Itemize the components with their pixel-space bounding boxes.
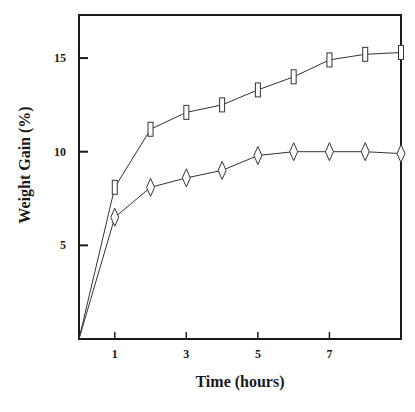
x-axis-title: Time (hours) <box>195 373 284 391</box>
diamond-marker <box>218 161 226 179</box>
square-marker <box>363 47 368 61</box>
x-tick-label: 3 <box>183 347 189 361</box>
y-axis-ticks: 51015 <box>54 51 88 252</box>
diamond-marker <box>111 208 119 226</box>
y-tick-label: 5 <box>60 238 66 252</box>
plot-border <box>79 15 401 339</box>
chart-canvas: 51015 1357 Time (hours) Weight Gain (%) <box>0 0 415 412</box>
square-marker <box>220 98 225 112</box>
x-tick-label: 1 <box>112 347 118 361</box>
square-marker <box>255 83 260 97</box>
square-marker <box>291 70 296 84</box>
series-line <box>79 152 401 339</box>
diamond-marker <box>290 143 298 161</box>
series-square <box>79 45 404 339</box>
diamond-marker <box>182 169 190 187</box>
square-marker <box>112 180 117 194</box>
diamond-marker <box>325 143 333 161</box>
y-tick-label: 10 <box>54 145 66 159</box>
diamond-marker <box>254 146 262 164</box>
square-marker <box>148 122 153 136</box>
square-marker <box>327 53 332 67</box>
x-axis-ticks: 1357 <box>112 332 333 361</box>
x-tick-label: 5 <box>255 347 261 361</box>
diamond-marker <box>147 178 155 196</box>
weight-gain-chart: 51015 1357 Time (hours) Weight Gain (%) <box>0 0 415 412</box>
square-marker <box>184 105 189 119</box>
diamond-marker <box>361 143 369 161</box>
series-line <box>79 53 401 340</box>
y-tick-label: 15 <box>54 51 66 65</box>
plot-frame <box>79 15 401 339</box>
series-layer <box>79 45 405 339</box>
square-marker <box>399 45 404 59</box>
series-diamond <box>79 143 405 339</box>
y-axis-title: Weight Gain (%) <box>16 106 34 223</box>
x-tick-label: 7 <box>326 347 332 361</box>
diamond-marker <box>397 145 405 163</box>
